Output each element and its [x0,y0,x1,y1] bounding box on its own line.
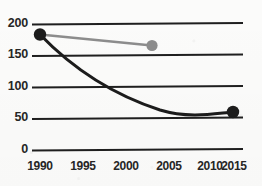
y-tick-label-50: 50 [0,111,28,124]
series-gray-series-line [40,35,152,46]
gridlines [32,23,243,151]
axis-baseline-0 [32,149,243,151]
x-tick-label-2015: 2015 [209,160,259,172]
series-gray-series [40,35,158,52]
y-tick-label-200: 200 [0,17,28,30]
y-tick-label-100: 100 [0,80,28,93]
series-dark-series [34,28,239,118]
y-tick-label-0: 0 [0,143,28,156]
gridline-200 [32,23,243,25]
series-gray-series-marker-2004 [146,40,157,51]
series-dark-series-marker-1990 [34,28,46,40]
series-dark-series-line [40,35,233,116]
gridline-100 [32,86,243,88]
y-tick-label-150: 150 [0,48,28,61]
gridline-50 [32,118,243,120]
series-dark-series-marker-2015 [227,106,239,118]
chart-container: 200 150 100 50 0 1990 1995 2000 2005 201… [0,0,262,186]
